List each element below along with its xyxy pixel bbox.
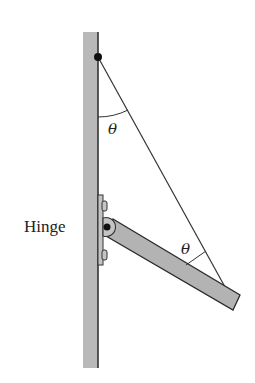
angle-arc-top — [98, 110, 128, 117]
wall — [83, 32, 98, 368]
hinge-label: Hinge — [24, 217, 66, 236]
wall-body — [83, 32, 98, 368]
theta-label-top: θ — [108, 120, 117, 138]
boom — [106, 219, 240, 310]
bolt-bottom-icon — [102, 250, 107, 260]
cable-anchor-icon — [94, 53, 102, 61]
hinge-assembly — [98, 195, 116, 265]
hinged-boom-diagram: θ θ Hinge — [0, 0, 255, 383]
hinge-pin-icon — [104, 224, 111, 231]
bolt-top-icon — [102, 201, 107, 211]
theta-label-bottom: θ — [181, 240, 190, 258]
